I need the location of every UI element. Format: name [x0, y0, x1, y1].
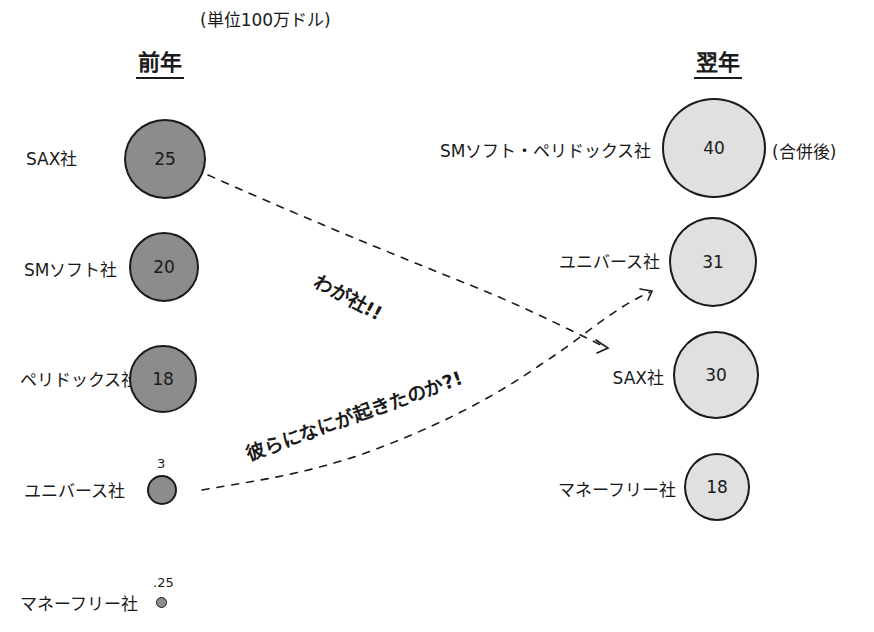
bubble-sax-prev: 25 [124, 119, 206, 199]
bubble-sax-next: 30 [673, 331, 759, 419]
company-label: ユニバース社 [520, 251, 660, 273]
column-header-next: 翌年 [694, 50, 742, 79]
bubble-value: 30 [705, 365, 727, 385]
bubble-value: 20 [153, 257, 175, 277]
bubble-value: 18 [706, 477, 728, 497]
bubble-universe-next: 31 [669, 217, 757, 307]
company-label: SMソフト・ペリドックス社 [440, 140, 648, 162]
merged-note: (合併後) [772, 138, 836, 163]
bubble-smsoft-prev: 20 [129, 232, 199, 302]
company-label: ペリドックス社 [20, 369, 138, 391]
company-label: SAX社 [560, 367, 664, 389]
company-label: マネーフリー社 [552, 479, 676, 501]
bubble-value: 3 [157, 456, 165, 471]
bubble-value: 18 [152, 369, 174, 389]
arrow-sax-head [596, 340, 608, 353]
bubble-value: 25 [154, 149, 176, 169]
bubble-value: .25 [153, 575, 174, 590]
company-label: マネーフリー社 [20, 593, 138, 615]
bubble-value: 31 [702, 252, 724, 272]
company-label: ユニバース社 [24, 480, 125, 502]
bubble-smsoft-peridox-next: 40 [662, 98, 766, 198]
company-label: SAX社 [26, 148, 77, 170]
unit-note: (単位100万ドル) [200, 6, 331, 31]
bubble-universe-prev [147, 475, 177, 505]
arrow-universe-head [640, 289, 652, 300]
company-label: SMソフト社 [24, 259, 117, 281]
bubble-moneyfree-next: 18 [684, 453, 750, 521]
bubble-value: 40 [703, 138, 725, 158]
column-header-previous: 前年 [136, 50, 184, 79]
annotation-what-happened: 彼らになにが起きたのか?! [241, 363, 465, 467]
bubble-peridox-prev: 18 [129, 345, 197, 413]
bubble-moneyfree-prev [156, 597, 167, 608]
connection-arrows [0, 0, 874, 632]
annotation-our-company: わが社!! [310, 267, 388, 326]
